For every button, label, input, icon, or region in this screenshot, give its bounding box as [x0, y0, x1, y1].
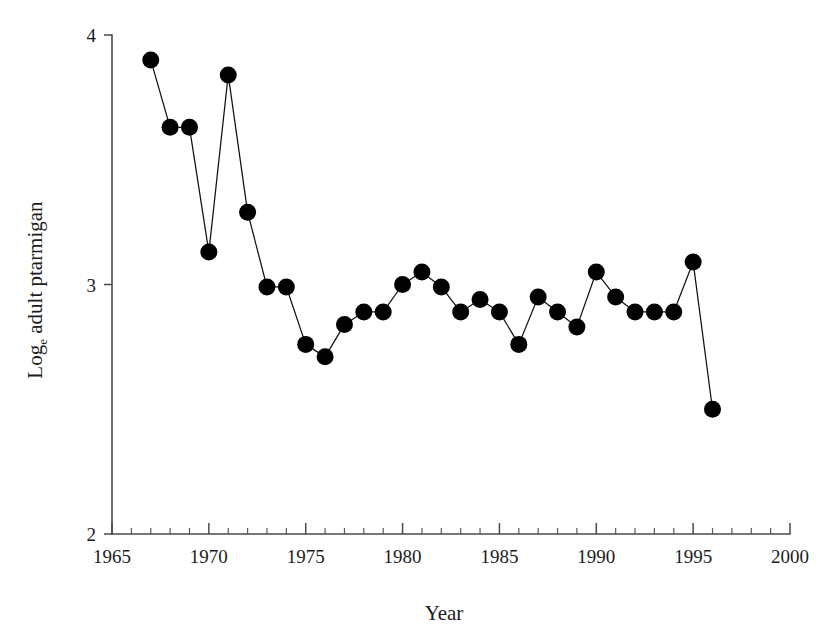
data-point-marker	[704, 401, 721, 418]
x-tick-label: 1985	[480, 546, 518, 567]
x-axis-title: Year	[425, 601, 464, 625]
y-axis-tick-labels: 234	[87, 25, 97, 545]
series-markers-ptarmigan	[142, 51, 721, 417]
y-tick-label: 3	[87, 275, 97, 296]
data-point-marker	[258, 278, 275, 295]
data-point-marker	[646, 303, 663, 320]
y-tick-label: 2	[87, 524, 97, 545]
data-point-marker	[413, 264, 430, 281]
x-axis-minor-ticks	[131, 528, 770, 534]
data-point-marker	[433, 278, 450, 295]
data-point-marker	[355, 303, 372, 320]
x-tick-label: 1975	[287, 546, 325, 567]
x-tick-label: 1980	[384, 546, 422, 567]
data-point-marker	[665, 303, 682, 320]
data-point-marker	[297, 336, 314, 353]
y-axis-ticks	[104, 35, 112, 534]
x-tick-label: 1965	[93, 546, 131, 567]
chart-plot-area: 234 19651970197519801985199019952000 Yea…	[0, 0, 840, 641]
data-point-marker	[510, 336, 527, 353]
data-point-marker	[142, 51, 159, 68]
chart-figure: 234 19651970197519801985199019952000 Yea…	[0, 0, 840, 641]
series-line-ptarmigan	[151, 60, 713, 409]
x-tick-label: 1995	[674, 546, 712, 567]
data-point-marker	[549, 303, 566, 320]
data-point-marker	[239, 204, 256, 221]
x-tick-label: 1990	[577, 546, 615, 567]
data-point-marker	[472, 291, 489, 308]
data-point-marker	[336, 316, 353, 333]
data-point-marker	[607, 288, 624, 305]
y-axis-title: Loge adult ptarmigan	[23, 201, 50, 379]
data-point-marker	[375, 303, 392, 320]
y-axis-title-main: Log	[23, 344, 47, 378]
x-tick-label: 2000	[771, 546, 809, 567]
data-point-marker	[317, 348, 334, 365]
data-point-marker	[568, 318, 585, 335]
data-point-marker	[181, 119, 198, 136]
data-point-marker	[588, 264, 605, 281]
data-point-marker	[220, 66, 237, 83]
y-tick-label: 4	[87, 25, 97, 46]
data-point-marker	[627, 303, 644, 320]
data-point-marker	[530, 288, 547, 305]
y-axis-title-group: Loge adult ptarmigan	[23, 201, 50, 379]
x-axis-tick-labels: 19651970197519801985199019952000	[93, 546, 809, 567]
data-point-marker	[278, 278, 295, 295]
data-point-marker	[685, 254, 702, 271]
y-axis-title-rest: adult ptarmigan	[23, 201, 47, 339]
data-point-marker	[491, 303, 508, 320]
x-axis-major-ticks	[112, 523, 790, 534]
data-point-marker	[200, 244, 217, 261]
data-point-marker	[162, 119, 179, 136]
data-point-marker	[394, 276, 411, 293]
data-point-marker	[452, 303, 469, 320]
x-tick-label: 1970	[190, 546, 228, 567]
